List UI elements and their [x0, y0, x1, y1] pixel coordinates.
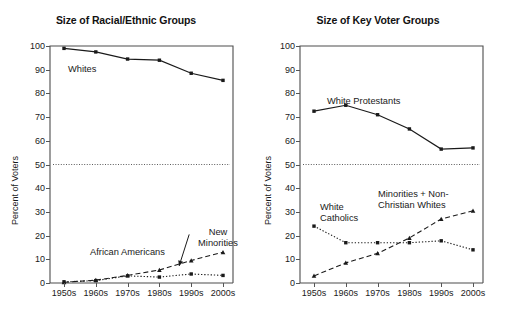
- y-axis-tick-label: 20: [285, 231, 295, 240]
- minorities-line-1: Minorities + Non-: [378, 189, 449, 199]
- y-axis-title-left: Percent of Voters: [10, 156, 20, 225]
- x-axis-tick-label: 1970s: [365, 289, 390, 298]
- y-axis-title-right: Percent of Voters: [263, 156, 273, 225]
- x-axis-tick-label: 1970s: [115, 289, 140, 298]
- x-axis-tick: [314, 283, 315, 287]
- x-axis-tick: [191, 283, 192, 287]
- y-axis-tick-label: 80: [285, 89, 295, 98]
- y-axis-tick: [296, 259, 300, 260]
- panel-key-voter: Size of Key Voter Groups Percent of Vote…: [252, 0, 504, 317]
- x-axis-tick-label: 1960s: [334, 289, 359, 298]
- panel-title-right: Size of Key Voter Groups: [252, 14, 504, 26]
- y-axis-tick-label: 0: [290, 279, 295, 288]
- series-marker: [312, 109, 315, 112]
- x-axis-tick-label: 1990s: [179, 289, 204, 298]
- series-marker: [440, 239, 443, 242]
- series-label-minorities-nonchristian: Minorities + Non- Christian Whites: [378, 189, 449, 210]
- y-axis-tick: [296, 93, 300, 94]
- x-axis-tick-label: 1980s: [147, 289, 172, 298]
- y-axis-tick: [296, 165, 300, 166]
- series-marker: [471, 208, 476, 212]
- y-axis-tick-label: 90: [285, 65, 295, 74]
- y-axis-tick-label: 40: [35, 184, 45, 193]
- x-axis-tick-label: 2000s: [211, 289, 236, 298]
- series-marker: [221, 274, 224, 277]
- y-axis-tick-label: 30: [35, 207, 45, 216]
- y-axis-tick: [46, 93, 50, 94]
- y-axis-tick: [296, 117, 300, 118]
- x-axis-tick: [64, 283, 65, 287]
- series-marker: [221, 79, 224, 82]
- y-axis-tick: [46, 70, 50, 71]
- series-label-new-minorities: New Minorities: [192, 227, 244, 248]
- y-axis-tick-label: 70: [35, 113, 45, 122]
- x-axis-tick: [346, 283, 347, 287]
- y-axis-tick: [46, 236, 50, 237]
- series-marker: [439, 217, 444, 221]
- x-axis-tick: [441, 283, 442, 287]
- y-axis-tick: [46, 46, 50, 47]
- white-catholics-line-2: Catholics: [320, 213, 358, 223]
- series-marker: [344, 241, 347, 244]
- series-marker: [471, 248, 474, 251]
- series-marker: [471, 146, 474, 149]
- series-marker: [376, 113, 379, 116]
- y-axis-tick-label: 80: [35, 89, 45, 98]
- series-marker: [126, 57, 129, 60]
- y-axis-tick: [46, 212, 50, 213]
- y-axis-tick: [46, 141, 50, 142]
- y-axis-tick-label: 70: [285, 113, 295, 122]
- y-axis-tick-label: 60: [35, 136, 45, 145]
- x-axis-tick: [128, 283, 129, 287]
- y-axis-tick-label: 100: [280, 42, 295, 51]
- y-axis-tick: [296, 141, 300, 142]
- y-axis-tick-label: 10: [35, 255, 45, 264]
- white-catholics-line-1: White: [320, 202, 344, 212]
- series-marker: [190, 272, 193, 275]
- x-axis-tick: [473, 283, 474, 287]
- series-marker: [158, 59, 161, 62]
- series-marker: [408, 241, 411, 244]
- y-axis-tick: [296, 283, 300, 284]
- x-axis-tick: [378, 283, 379, 287]
- x-axis-tick: [159, 283, 160, 287]
- x-axis-tick-label: 1980s: [397, 289, 422, 298]
- panel-racial-ethnic: Size of Racial/Ethnic Groups Percent of …: [0, 0, 252, 317]
- x-axis-tick: [223, 283, 224, 287]
- y-axis-tick: [46, 165, 50, 166]
- y-axis-tick-label: 60: [285, 136, 295, 145]
- series-label-white-catholics: White Catholics: [320, 202, 358, 223]
- x-axis-tick-label: 1990s: [429, 289, 454, 298]
- y-axis-tick-label: 50: [35, 160, 45, 169]
- series-marker: [221, 250, 226, 254]
- panel-title-left: Size of Racial/Ethnic Groups: [0, 14, 252, 26]
- series-marker: [376, 241, 379, 244]
- minorities-line-2: Christian Whites: [378, 200, 446, 210]
- y-axis-tick: [46, 188, 50, 189]
- y-axis-tick: [296, 188, 300, 189]
- figure-root: Size of Racial/Ethnic Groups Percent of …: [0, 0, 505, 317]
- chart-canvas-right: [300, 46, 483, 283]
- x-axis-tick-label: 2000s: [461, 289, 486, 298]
- y-axis-tick-label: 40: [285, 184, 295, 193]
- y-axis-tick-label: 100: [30, 42, 45, 51]
- new-minorities-line-2: Minorities: [198, 238, 238, 248]
- series-line: [314, 105, 473, 149]
- y-axis-tick: [296, 46, 300, 47]
- series-marker: [375, 251, 380, 255]
- x-axis-tick: [96, 283, 97, 287]
- series-marker: [94, 50, 97, 53]
- y-axis-tick-label: 30: [285, 207, 295, 216]
- y-axis-tick-label: 20: [35, 231, 45, 240]
- series-label-african-americans: African Americans: [90, 247, 165, 258]
- y-axis-tick: [46, 283, 50, 284]
- x-axis-tick-label: 1950s: [52, 289, 77, 298]
- new-minorities-line-1: New: [209, 227, 228, 237]
- series-marker: [408, 127, 411, 130]
- y-axis-tick: [296, 212, 300, 213]
- series-label-white-protestants: White Protestants: [327, 96, 400, 107]
- series-label-whites: Whites: [68, 64, 96, 75]
- x-axis-tick: [409, 283, 410, 287]
- series-marker: [190, 72, 193, 75]
- y-axis-tick: [296, 236, 300, 237]
